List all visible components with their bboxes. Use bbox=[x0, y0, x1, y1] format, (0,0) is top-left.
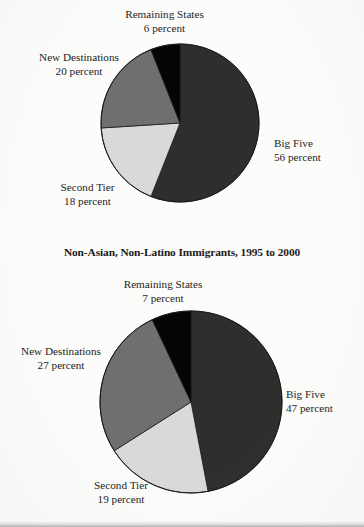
slice-label-second-tier-bottom: Second Tier 19 percent bbox=[58, 478, 184, 506]
slice-label-percent: 19 percent bbox=[58, 492, 184, 506]
figure-page: Remaining States 6 percent New Destinati… bbox=[0, 0, 364, 527]
chart-title-bottom: Non-Asian, Non-Latino Immigrants, 1995 t… bbox=[0, 246, 364, 258]
slice-label-name: Big Five bbox=[274, 137, 313, 149]
slice-label-percent: 47 percent bbox=[286, 401, 364, 415]
pie-svg-bottom bbox=[99, 310, 283, 494]
slice-label-big-five-bottom: Big Five 47 percent bbox=[286, 387, 364, 415]
slice-label-second-tier-top: Second Tier 18 percent bbox=[30, 180, 145, 208]
slice-label-remaining-states-top: Remaining States 6 percent bbox=[101, 7, 228, 35]
pie-chart-top: Remaining States 6 percent New Destinati… bbox=[0, 0, 364, 240]
slice-label-percent: 7 percent bbox=[100, 291, 226, 305]
slice-label-percent: 18 percent bbox=[30, 194, 145, 208]
slice-label-name: New Destinations bbox=[21, 345, 101, 357]
slice-label-new-destinations-bottom: New Destinations 27 percent bbox=[2, 344, 120, 372]
pie-chart-bottom: Non-Asian, Non-Latino Immigrants, 1995 t… bbox=[0, 240, 364, 527]
slice-label-name: Remaining States bbox=[125, 8, 204, 20]
slice-label-percent: 6 percent bbox=[101, 21, 228, 35]
slice-label-remaining-states-bottom: Remaining States 7 percent bbox=[100, 277, 226, 305]
pie-graphic-bottom bbox=[99, 310, 283, 494]
slice-label-name: New Destinations bbox=[39, 51, 119, 63]
slice-label-name: Remaining States bbox=[124, 278, 203, 290]
slice-label-big-five-top: Big Five 56 percent bbox=[274, 136, 364, 164]
slice-label-percent: 20 percent bbox=[11, 64, 147, 78]
slice-label-new-destinations-top: New Destinations 20 percent bbox=[11, 50, 147, 78]
slice-label-percent: 27 percent bbox=[2, 358, 120, 372]
slice-label-name: Second Tier bbox=[61, 181, 115, 193]
slice-label-name: Second Tier bbox=[94, 479, 148, 491]
slice-label-name: Big Five bbox=[286, 388, 325, 400]
slice-label-percent: 56 percent bbox=[274, 150, 364, 164]
pie-slice-big-five bbox=[191, 311, 282, 491]
